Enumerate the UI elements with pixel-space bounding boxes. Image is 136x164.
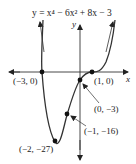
point-neg2-neg27 xyxy=(53,139,58,144)
x-axis-label: x xyxy=(125,74,130,84)
point-1-0 xyxy=(90,70,95,75)
point-neg3-0 xyxy=(40,70,45,75)
leader-0-neg3 xyxy=(83,84,99,103)
point-neg1-neg16 xyxy=(65,112,70,117)
label-neg3-0: (−3, 0) xyxy=(13,76,38,86)
leader-neg1-neg16 xyxy=(71,116,86,126)
label-0-neg3: (0, −3) xyxy=(94,104,119,114)
label-neg2-neg27: (−2, −27) xyxy=(19,144,53,154)
label-neg1-neg16: (−1, −16) xyxy=(84,126,118,136)
label-1-0: (1, 0) xyxy=(94,76,114,86)
point-0-neg3 xyxy=(78,78,83,83)
y-axis-label: y xyxy=(71,19,76,29)
graph-figure: y = x⁴ − 6x² + 8x − 3 x y (−3, 0) (1, 0)… xyxy=(0,0,136,164)
equation-label: y = x⁴ − 6x² + 8x − 3 xyxy=(32,8,112,18)
